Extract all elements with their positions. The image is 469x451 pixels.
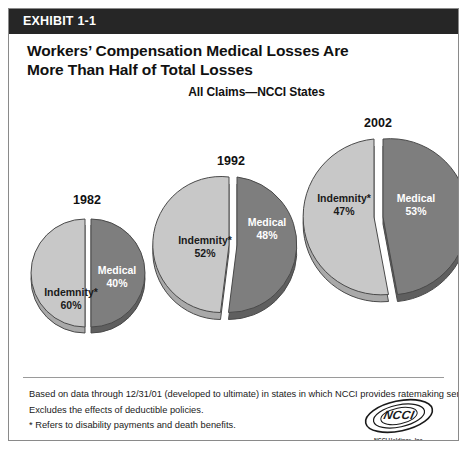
exhibit-frame: EXHIBIT 1-1 Workers’ Compensation Medica… <box>8 8 459 441</box>
pie-2002-slice-indemnity <box>303 139 388 295</box>
pie-2002: Indemnity* 47% Medical 53% <box>294 135 459 303</box>
year-label-1982: 1982 <box>73 193 101 207</box>
pie-1992-slice-medical <box>229 177 297 313</box>
year-label-1992: 1992 <box>217 154 245 168</box>
page-title-line-1: Workers’ Compensation Medical Losses Are <box>27 41 444 60</box>
pie-1992: Indemnity* 52% Medical 48% <box>157 173 311 321</box>
footnotes: Based on data through 12/31/01 (develope… <box>29 387 359 434</box>
exhibit-header-bar: EXHIBIT 1-1 <box>9 9 458 34</box>
ncci-wordmark: NCCI <box>382 408 416 422</box>
pie-1992-slice-indemnity <box>153 177 229 313</box>
page-subtitle: All Claims—NCCI States <box>27 85 444 99</box>
exhibit-badge-label: EXHIBIT 1-1 <box>23 14 96 28</box>
footnote-asterisk: * Refers to disability payments and deat… <box>29 418 359 434</box>
ncci-logo-caption: NCCI Holdings, Inc. <box>374 437 424 441</box>
ncci-logo: NCCI NCCI Holdings, Inc. <box>356 397 442 441</box>
page-title-line-2: More Than Half of Total Losses <box>27 60 444 79</box>
pie-1982: Indemnity* 60% Medical 40% <box>27 215 151 333</box>
footnote-data-source: Based on data through 12/31/01 (develope… <box>29 387 359 403</box>
footer-divider <box>23 377 444 378</box>
year-label-2002: 2002 <box>364 116 392 130</box>
footnote-deductible: Excludes the effects of deductible polic… <box>29 403 359 419</box>
pie-1982-slice-indemnity <box>31 219 85 327</box>
pie-1982-slice-medical <box>91 219 145 327</box>
page-title: Workers’ Compensation Medical Losses Are… <box>27 41 444 79</box>
pie-chart-group: 1982 Indemnity* 60% Medical 40% 1992 <box>9 105 458 367</box>
title-block: Workers’ Compensation Medical Losses Are… <box>27 41 444 99</box>
